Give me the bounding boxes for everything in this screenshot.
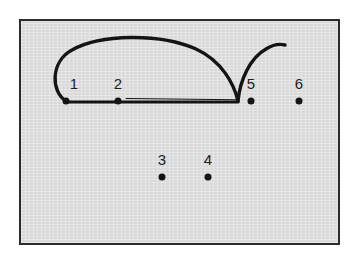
node-3-dot	[159, 174, 166, 181]
node-3-label: 3	[158, 152, 166, 167]
node-2-label: 2	[114, 76, 122, 91]
node-1-dot	[63, 98, 70, 105]
node-4-label: 4	[204, 152, 212, 167]
node-6-label: 6	[295, 76, 303, 91]
figure-page: 123456	[0, 0, 359, 264]
node-1-label: 1	[70, 76, 78, 91]
node-5-label: 5	[247, 76, 255, 91]
node-2-dot	[115, 98, 122, 105]
node-4-dot	[205, 174, 212, 181]
figure-frame	[19, 19, 340, 245]
node-5-dot	[248, 98, 255, 105]
node-6-dot	[296, 98, 303, 105]
